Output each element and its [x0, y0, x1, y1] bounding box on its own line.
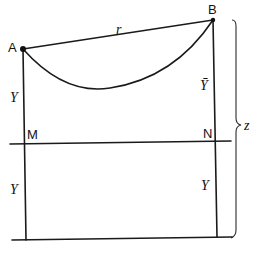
right-vertical-line [213, 20, 217, 237]
label-y-left-lower: Y [10, 182, 20, 197]
label-r: r [116, 22, 122, 37]
baseline [12, 237, 232, 240]
label-m: M [27, 127, 38, 142]
point-a-dot [20, 46, 26, 52]
label-y-right-lower: Y [201, 178, 211, 193]
point-b-dot [211, 18, 215, 22]
label-n: N [203, 126, 212, 141]
label-y-left-upper: Y [10, 90, 20, 105]
label-b: B [208, 2, 217, 17]
horizontal-line-mn [10, 141, 231, 144]
label-ybar-right-upper: Ȳ [200, 78, 210, 93]
label-z: z [243, 118, 250, 133]
label-a: A [8, 40, 17, 55]
brace-z [231, 20, 241, 238]
catenary-diagram: A B M N r Y Ȳ Y Y z [0, 0, 259, 253]
